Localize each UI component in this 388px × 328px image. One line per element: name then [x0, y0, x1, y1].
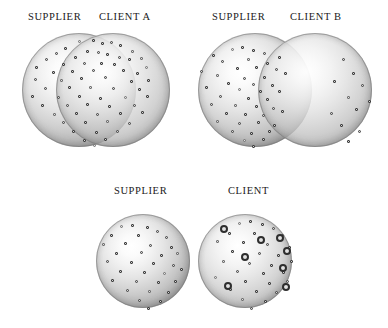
- data-point: [249, 220, 252, 223]
- data-point: [222, 260, 225, 263]
- data-point: [268, 282, 271, 285]
- data-point: [231, 250, 234, 253]
- highlighted-data-point: [224, 282, 232, 290]
- highlighted-data-point: [257, 236, 265, 244]
- data-point: [281, 234, 284, 237]
- data-point: [277, 254, 280, 257]
- data-point: [272, 227, 275, 230]
- data-point: [258, 252, 261, 255]
- data-point: [229, 288, 232, 291]
- data-point: [248, 262, 251, 265]
- data-point: [241, 298, 244, 301]
- data-point: [255, 290, 258, 293]
- data-point: [228, 232, 231, 235]
- data-point: [253, 232, 256, 235]
- highlighted-data-point: [282, 283, 290, 291]
- data-point: [275, 291, 278, 294]
- data-point: [290, 260, 293, 263]
- data-point: [250, 307, 253, 310]
- panel-client-highlighted: [0, 0, 388, 328]
- data-point: [262, 272, 265, 275]
- data-point: [238, 222, 241, 225]
- data-point: [244, 280, 247, 283]
- highlighted-data-point: [279, 264, 287, 272]
- highlighted-data-point: [241, 253, 249, 261]
- data-point: [264, 300, 267, 303]
- data-point: [282, 271, 285, 274]
- dots-layer-client-highlighted: [0, 0, 388, 328]
- data-point: [242, 241, 245, 244]
- data-point: [216, 240, 219, 243]
- data-point: [214, 276, 217, 279]
- data-point: [236, 270, 239, 273]
- data-point: [286, 280, 289, 283]
- data-point: [261, 223, 264, 226]
- supplier-client-figure: SUPPLIERCLIENT ASUPPLIERCLIENT BSUPPLIER…: [0, 0, 388, 328]
- data-point: [270, 264, 273, 267]
- highlighted-data-point: [220, 225, 228, 233]
- data-point: [266, 243, 269, 246]
- data-point: [288, 246, 291, 249]
- highlighted-data-point: [276, 234, 284, 242]
- highlighted-data-point: [283, 247, 291, 255]
